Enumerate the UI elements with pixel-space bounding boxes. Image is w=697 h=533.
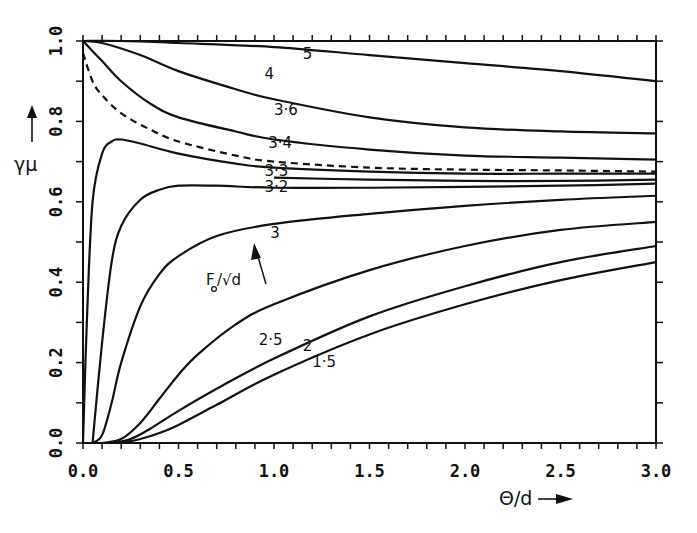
- x-tick-label: 3.0: [641, 461, 672, 481]
- y-tick-label: 0.0: [46, 428, 66, 459]
- axis-ticks: [76, 35, 663, 449]
- curve-2-5: [102, 222, 656, 443]
- curve-3: [93, 196, 656, 443]
- curve-label: 3·6: [274, 101, 298, 119]
- y-axis-title: γμ: [14, 105, 37, 175]
- curve-3-6: [83, 41, 656, 160]
- curve-3-2: [93, 184, 656, 443]
- y-tick-label: 1.0: [46, 26, 66, 57]
- x-tick-label: 0.0: [68, 461, 99, 481]
- x-axis-label: Θ/d: [499, 487, 532, 509]
- param-label-rest: /√d: [217, 271, 241, 289]
- curve-5: [83, 41, 656, 81]
- y-tick-label: 0.8: [46, 106, 66, 137]
- plot-frame: [83, 41, 656, 443]
- tick-labels: 0.00.51.01.52.02.53.00.00.20.40.60.81.0: [46, 26, 671, 481]
- x-axis-title: Θ/d: [499, 487, 573, 509]
- curve-labels: 543·63·43·33·232·521·5: [259, 45, 336, 371]
- chart: 0.00.51.01.52.02.53.00.00.20.40.60.81.0 …: [0, 0, 697, 533]
- x-tick-label: 2.0: [450, 461, 481, 481]
- curves: [83, 41, 656, 443]
- curve-3-3: [274, 178, 656, 181]
- curve-label: 2·5: [259, 331, 283, 349]
- curve-dashed: [83, 53, 656, 172]
- y-tick-label: 0.6: [46, 186, 66, 217]
- y-axis-label: γμ: [14, 153, 37, 175]
- curve-label: 1·5: [312, 353, 336, 371]
- curve-label: 5: [303, 45, 313, 63]
- curve-label: 3·2: [264, 178, 288, 196]
- x-tick-label: 2.5: [545, 461, 576, 481]
- curve-label: 3·4: [268, 134, 292, 152]
- x-tick-label: 0.5: [163, 461, 194, 481]
- x-tick-label: 1.5: [354, 461, 385, 481]
- curve-label: 3: [270, 224, 280, 242]
- arrow-up-icon: [27, 105, 37, 142]
- y-tick-label: 0.2: [46, 347, 66, 378]
- curve-2: [112, 246, 656, 443]
- curve-label: 2: [303, 337, 313, 355]
- parameter-annotation: F /√d: [206, 243, 266, 291]
- arrow-right-icon: [538, 494, 573, 504]
- x-tick-label: 1.0: [259, 461, 290, 481]
- curve-label: 4: [264, 65, 274, 83]
- y-tick-label: 0.4: [46, 267, 66, 298]
- arrow-up-icon: [251, 243, 266, 284]
